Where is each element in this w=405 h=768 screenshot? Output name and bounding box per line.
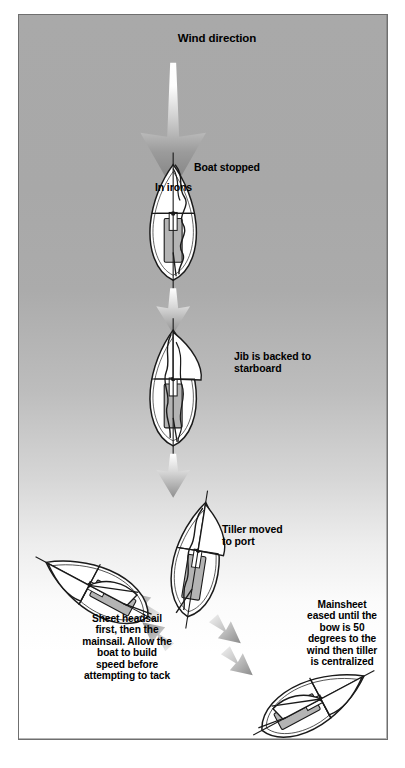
boat-in-irons [150, 153, 196, 297]
spread-arrow-right-inner [209, 614, 241, 643]
illustration-panel: Wind direction Boat stopped In irons Jib… [18, 14, 388, 740]
spread-arrow-right-outer [221, 646, 253, 675]
label-mainsheet-eased-instruction: Mainsheet eased until the bow is 50 degr… [277, 599, 388, 668]
label-boat-stopped: Boat stopped [194, 162, 314, 174]
flow-arrow-2 [156, 454, 190, 498]
boat-tiller-port [163, 487, 234, 633]
diagram-canvas: Wind direction Boat stopped In irons Jib… [0, 0, 405, 768]
label-wind-direction: Wind direction [137, 32, 297, 45]
label-sheet-headsail-instruction: Sheet headsail first, then the mainsail.… [57, 613, 197, 682]
label-in-irons: In irons [112, 182, 192, 194]
label-tiller-moved-to-port: Tiller moved to port [222, 524, 332, 548]
label-jib-backed-to-starboard: Jib is backed to starboard [234, 351, 354, 375]
boat-jib-backed [150, 318, 201, 462]
